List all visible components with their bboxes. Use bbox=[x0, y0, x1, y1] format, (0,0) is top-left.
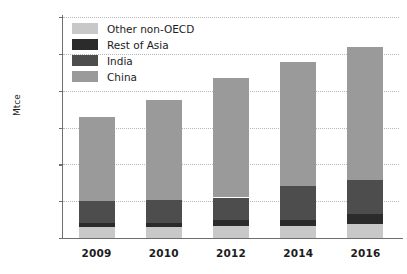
legend-item: China bbox=[72, 70, 194, 83]
y-tick-mark bbox=[59, 128, 63, 129]
bar-segment bbox=[79, 227, 115, 238]
bar-segment bbox=[347, 214, 383, 224]
stacked-bar-chart: Mtce 050010001500200025003000 2009201020… bbox=[0, 0, 407, 274]
bar-2012 bbox=[213, 17, 249, 238]
legend-label: China bbox=[107, 71, 137, 83]
bar-segment bbox=[280, 226, 316, 238]
bar-segment bbox=[79, 201, 115, 223]
y-tick-mark bbox=[59, 238, 63, 239]
bar-segment bbox=[280, 62, 316, 186]
y-tick-mark bbox=[59, 164, 63, 165]
legend-label: Rest of Asia bbox=[107, 39, 169, 51]
bar-segment bbox=[213, 226, 249, 238]
y-axis-title: Mtce bbox=[12, 94, 22, 116]
bar-segment bbox=[213, 78, 249, 197]
x-tick-label: 2016 bbox=[335, 247, 395, 259]
bar-segment bbox=[280, 186, 316, 220]
y-tick-mark bbox=[59, 54, 63, 55]
bar-segment bbox=[79, 117, 115, 201]
y-tick-mark bbox=[59, 91, 63, 92]
x-axis-line bbox=[62, 238, 403, 239]
x-tick-label: 2009 bbox=[67, 247, 127, 259]
bar-2014 bbox=[280, 17, 316, 238]
bar-segment bbox=[347, 47, 383, 180]
legend-swatch-icon bbox=[72, 39, 98, 50]
bar-2016 bbox=[347, 17, 383, 238]
x-tick-label: 2010 bbox=[134, 247, 194, 259]
bar-segment bbox=[213, 220, 249, 226]
legend-item: Rest of Asia bbox=[72, 38, 194, 51]
bar-segment bbox=[280, 220, 316, 226]
chart-legend: Other non-OECDRest of AsiaIndiaChina bbox=[72, 22, 194, 83]
legend-swatch-icon bbox=[72, 23, 98, 34]
legend-item: India bbox=[72, 54, 194, 67]
y-tick-mark bbox=[59, 17, 63, 18]
bar-segment bbox=[79, 223, 115, 227]
bar-segment bbox=[146, 200, 182, 223]
legend-item: Other non-OECD bbox=[72, 22, 194, 35]
legend-swatch-icon bbox=[72, 71, 98, 82]
bar-segment bbox=[213, 198, 249, 221]
y-tick-mark bbox=[59, 201, 63, 202]
x-tick-label: 2014 bbox=[268, 247, 328, 259]
bar-segment bbox=[146, 227, 182, 238]
legend-label: India bbox=[107, 55, 133, 67]
x-tick-label: 2012 bbox=[201, 247, 261, 259]
legend-swatch-icon bbox=[72, 55, 98, 66]
legend-label: Other non-OECD bbox=[107, 23, 194, 35]
bar-segment bbox=[347, 180, 383, 214]
bar-segment bbox=[146, 100, 182, 199]
bar-segment bbox=[347, 224, 383, 238]
bar-segment bbox=[146, 223, 182, 227]
